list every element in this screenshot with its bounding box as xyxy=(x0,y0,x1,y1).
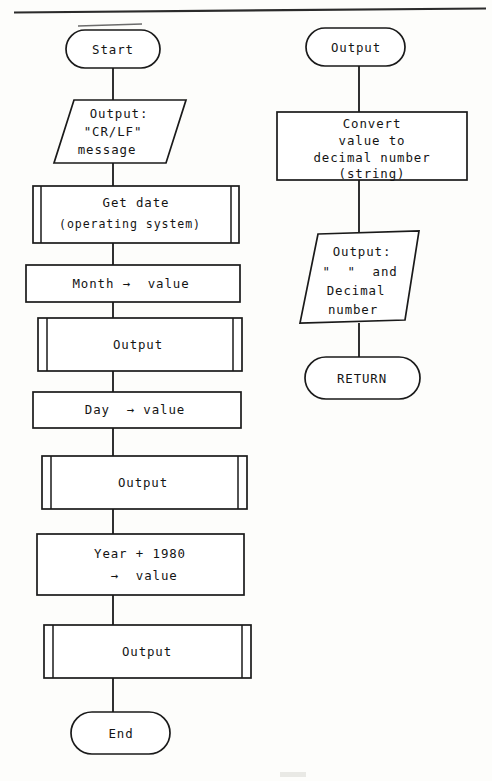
node-end-label: End xyxy=(108,726,133,741)
node-end[interactable]: End xyxy=(71,712,170,754)
page-top-rule xyxy=(14,9,486,27)
node-get-date-line1: Get date xyxy=(103,195,170,210)
node-output-1[interactable]: Output xyxy=(38,318,242,371)
node-out-crlf-line1: Output: xyxy=(90,106,149,121)
node-return-label: RETURN xyxy=(337,371,387,386)
node-output-3-label: Output xyxy=(122,644,172,659)
node-out-decimal[interactable]: Output: " " and Decimal number xyxy=(300,231,419,323)
node-out-decimal-line4: number xyxy=(328,302,378,317)
node-month-value[interactable]: Month → value xyxy=(26,265,240,302)
node-month-value-label: Month → value xyxy=(72,276,189,291)
node-convert-line2: value to xyxy=(339,133,406,148)
node-convert-line3: decimal number xyxy=(313,150,430,165)
node-convert-line4: (string) xyxy=(339,166,406,181)
node-out-decimal-line2: " " and xyxy=(322,264,397,279)
page-bottom-mark xyxy=(280,772,306,777)
node-output-2[interactable]: Output xyxy=(42,456,247,509)
node-convert-line1: Convert xyxy=(343,116,402,131)
node-output-3[interactable]: Output xyxy=(44,625,251,678)
node-output-1-label: Output xyxy=(113,337,163,352)
node-return[interactable]: RETURN xyxy=(305,357,420,399)
node-year-value-line1: Year + 1980 xyxy=(94,546,186,561)
node-sub-output[interactable]: Output xyxy=(306,28,405,66)
node-day-value-label: Day → value xyxy=(85,402,185,417)
node-get-date[interactable]: Get date (operating system) xyxy=(33,186,239,243)
node-start-label: Start xyxy=(92,42,134,57)
node-out-decimal-line3: Decimal xyxy=(327,283,386,298)
node-out-crlf-line3: message xyxy=(78,142,137,157)
node-start[interactable]: Start xyxy=(66,30,160,68)
node-sub-output-label: Output xyxy=(331,40,381,55)
node-day-value[interactable]: Day → value xyxy=(33,392,241,428)
flowchart-page: Start Output: "CR/LF" message Get date (… xyxy=(0,0,492,781)
node-year-value[interactable]: Year + 1980 → value xyxy=(37,534,244,595)
node-convert[interactable]: Convert value to decimal number (string) xyxy=(277,112,467,181)
node-out-decimal-line1: Output: xyxy=(333,244,392,259)
node-out-crlf-line2: "CR/LF" xyxy=(84,124,143,139)
node-get-date-line2: (operating system) xyxy=(59,217,201,231)
node-out-crlf[interactable]: Output: "CR/LF" message xyxy=(54,100,186,163)
node-year-value-line2: → value xyxy=(102,568,177,583)
node-output-2-label: Output xyxy=(118,475,168,490)
